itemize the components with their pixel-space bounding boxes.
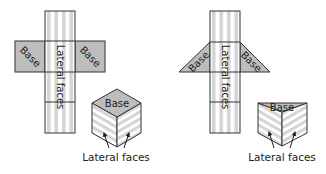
prism-nets-diagram: Base Base Lateral faces Base Lateral fac… bbox=[0, 0, 326, 174]
cube-solid-base-label: Base bbox=[105, 98, 129, 109]
prism-solid-lateral-label: Lateral faces bbox=[248, 151, 316, 163]
cube-solid-lateral-label: Lateral faces bbox=[82, 151, 150, 163]
prism-net-lateral-label: Lateral faces bbox=[220, 45, 231, 109]
prism-solid: Base Lateral faces bbox=[248, 102, 316, 163]
cube-solid: Base Lateral faces bbox=[82, 89, 150, 163]
prism-solid-base-label: Base bbox=[270, 102, 294, 113]
prism-net: Base Base Lateral faces bbox=[179, 11, 270, 133]
cube-net-lateral-label: Lateral faces bbox=[55, 45, 66, 109]
